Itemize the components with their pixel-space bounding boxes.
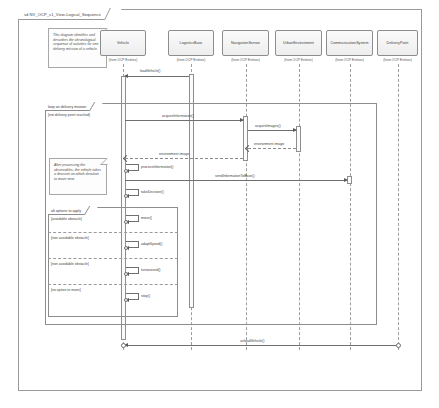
fragment-separator-2: [48, 258, 178, 259]
fragment-guard-alt-2: [non avoidable obstacle]: [51, 236, 89, 240]
diagram-frame-label: sd NV_OCP_s1_View-Logical_Sequence: [18, 9, 116, 20]
message-arrow-sendinformation: [344, 178, 348, 182]
lifeline-name-urbanenvironment: UrbanEnvironment: [283, 41, 314, 45]
message-label-takedecision: takeDecision(): [141, 190, 164, 194]
message-label-processinformation: processInformation(): [141, 165, 174, 169]
message-arrow-loadvehicle: [124, 74, 128, 78]
message-label-acquireinformation: acquireInformation(): [162, 114, 194, 118]
message-endpoint-vehicle: [121, 343, 126, 348]
message-label-loadvehicle: loadVehicle(): [140, 69, 161, 73]
selfmessage-origin-adaptspeed: [124, 246, 128, 250]
selfmessage-origin-move: [124, 220, 128, 224]
message-line-acquireimages: [248, 130, 296, 131]
selfmessage-origin-stop: [124, 298, 128, 302]
fragment-guard-alt-1: [avoidable obstacle]: [51, 217, 82, 221]
message-line-environmentimage-vehicle: [125, 158, 243, 159]
message-arrow-acquireimages: [293, 128, 297, 132]
selfmessage-origin-takedecision: [124, 194, 128, 198]
lifeline-stereotype-deliverypoint: (from OCP Entities): [377, 58, 418, 62]
message-endpoint-deliverypoint: [396, 343, 401, 348]
lifeline-header-vehicle[interactable]: Vehicle: [100, 30, 146, 56]
lifeline-header-navigationsensor[interactable]: NavigationSensor: [222, 30, 269, 56]
lifeline-header-logisticsbase[interactable]: LogisticsBase: [168, 30, 214, 56]
fragment-separator-3: [48, 284, 178, 285]
message-label-unloadvehicle: unloadVehicle(): [240, 339, 264, 343]
message-line-acquireinformation: [125, 120, 243, 121]
lifeline-deliverypoint: [398, 64, 399, 350]
message-label-acquireimages: acquireImages(): [255, 124, 281, 128]
sequence-diagram-canvas: sd NV_OCP_s1_View-Logical_Sequence This …: [0, 0, 439, 408]
lifeline-name-navigationsensor: NavigationSensor: [231, 41, 260, 45]
lifeline-stereotype-navigationsensor: (from OCP Entities): [222, 58, 269, 62]
lifeline-stereotype-vehicle: (from OCP Entities): [100, 58, 146, 62]
note-overview: This diagram identifies and describes th…: [48, 28, 107, 68]
fragment-guard-loop: [not delivery point reached]: [48, 113, 90, 117]
fragment-guard-alt-3: [non avoidable obstacle]: [51, 262, 89, 266]
message-label-move: move(): [141, 216, 152, 220]
lifeline-header-urbanenvironment[interactable]: UrbanEnvironment: [275, 30, 322, 56]
message-line-environmentimage-sensor: [248, 148, 296, 149]
selfmessage-origin-processinformation: [124, 169, 128, 173]
lifeline-name-logisticsbase: LogisticsBase: [180, 41, 203, 45]
lifeline-name-communicationsystem: CommunicationSystem: [331, 41, 369, 45]
message-label-environmentimage-vehicle: environment image: [159, 152, 189, 156]
message-label-turnaround: turnaround(): [141, 268, 161, 272]
message-line-sendinformation: [125, 180, 347, 181]
fragment-label-loop: loop on delivery mission: [45, 103, 98, 111]
message-label-environmentimage-sensor: environment image: [254, 142, 284, 146]
message-label-sendinformation: sendInformationToBase(): [215, 174, 255, 178]
fragment-separator-1: [48, 232, 178, 233]
lifeline-header-communicationsystem[interactable]: CommunicationSystem: [326, 30, 373, 56]
selfmessage-origin-turnaround: [124, 272, 128, 276]
message-label-adaptspeed: adaptSpeed(): [141, 242, 162, 246]
fragment-guard-alt-4: [no option to move]: [51, 288, 81, 292]
message-arrow-acquireinformation: [240, 118, 244, 122]
message-label-stop: stop(): [141, 294, 150, 298]
lifeline-stereotype-urbanenvironment: (from OCP Entities): [275, 58, 322, 62]
message-line-loadvehicle: [126, 76, 189, 77]
fragment-label-alt: alt options to apply: [48, 207, 93, 215]
lifeline-name-vehicle: Vehicle: [117, 41, 129, 45]
lifeline-stereotype-communicationsystem: (from OCP Entities): [326, 58, 373, 62]
lifeline-stereotype-logisticsbase: (from OCP Entities): [168, 58, 214, 62]
message-line-unloadvehicle: [126, 345, 398, 346]
lifeline-name-deliverypoint: DeliveryPoint: [387, 41, 409, 45]
lifeline-header-deliverypoint[interactable]: DeliveryPoint: [377, 30, 418, 56]
